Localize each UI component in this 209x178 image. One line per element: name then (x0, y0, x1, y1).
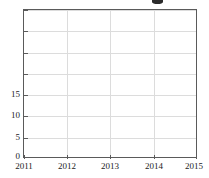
x-axis-tick-label: 2015 (174, 161, 209, 171)
y-axis-tick (24, 116, 28, 117)
y-axis-tick (24, 31, 28, 32)
x-axis-tick (196, 155, 197, 159)
y-axis-tick (24, 95, 28, 96)
x-axis-tick (24, 155, 25, 159)
x-axis-tick-label: 2014 (134, 161, 174, 171)
y-axis-tick (24, 10, 28, 11)
gridline-vertical (154, 10, 155, 157)
x-axis-tick-label: 2011 (4, 161, 44, 171)
y-axis-labels: 15 10 5 0 (0, 9, 20, 158)
x-axis-tick-label: 2012 (47, 161, 87, 171)
y-axis-tick-label: 5 (0, 133, 20, 142)
x-axis-tick (110, 155, 111, 159)
gridline-vertical (110, 10, 111, 157)
x-axis-tick-label: 2013 (90, 161, 130, 171)
chart-container: 15 10 5 0 2011 2012 2013 2014 2015 (0, 0, 209, 178)
y-axis-tick-label: 10 (0, 111, 20, 120)
clipped-title-marker (152, 0, 163, 4)
gridline-vertical (67, 10, 68, 157)
y-axis-tick-label: 15 (0, 90, 20, 99)
x-axis-tick (67, 155, 68, 159)
x-axis-tick (154, 155, 155, 159)
plot-area (23, 9, 197, 158)
y-axis-tick (24, 53, 28, 54)
y-axis-tick (24, 74, 28, 75)
x-axis-labels: 2011 2012 2013 2014 2015 (0, 161, 209, 175)
y-axis-tick (24, 138, 28, 139)
y-axis-tick-label: 0 (0, 152, 20, 161)
